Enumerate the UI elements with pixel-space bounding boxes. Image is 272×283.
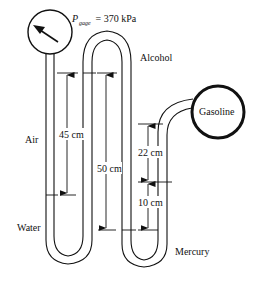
- dimension-50cm: [97, 73, 117, 230]
- dimension-label-22: 22 cm: [138, 147, 163, 158]
- gasoline-label: Gasoline: [199, 106, 235, 117]
- pressure-gauge: [28, 10, 72, 54]
- gauge-label-sub: gage: [79, 20, 91, 26]
- dimension-label-50: 50 cm: [97, 163, 122, 174]
- manometer-diagram: P gage = 370 kPa Alcohol Air Water Mercu…: [0, 0, 272, 283]
- alcohol-label: Alcohol: [140, 52, 172, 63]
- gauge-label-main: P: [71, 13, 78, 24]
- dimension-label-45: 45 cm: [59, 129, 84, 140]
- mercury-label: Mercury: [175, 246, 209, 257]
- gauge-label-value: = 370 kPa: [93, 13, 137, 24]
- manometer-tube: [46, 31, 193, 267]
- air-label: Air: [25, 134, 39, 145]
- water-label: Water: [17, 222, 41, 233]
- dimension-label-10: 10 cm: [138, 197, 163, 208]
